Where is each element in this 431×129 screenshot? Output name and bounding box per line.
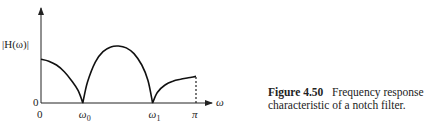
x-tick-label: 0 xyxy=(37,108,43,120)
x-tick-label: ω1 xyxy=(149,108,161,123)
y-tick-label: 0 xyxy=(33,96,39,108)
figure-caption: Figure 4.50 Frequency response character… xyxy=(268,86,428,112)
magnitude-curve xyxy=(41,46,196,103)
x-tick-label: ω0 xyxy=(79,108,91,123)
figure-label: Figure 4.50 xyxy=(268,86,323,98)
x-axis-label: ω xyxy=(216,96,224,108)
y-axis-label: |H(ω)| xyxy=(2,38,29,51)
x-tick-label: π xyxy=(192,108,198,120)
